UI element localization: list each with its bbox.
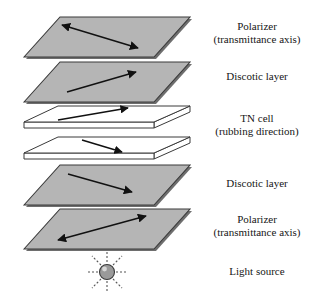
tn-cell-upper-plate: [24, 106, 190, 128]
label-polarizer-top: Polarizer (transmittance axis): [200, 20, 314, 46]
light-source-highlight: [102, 267, 107, 272]
discotic-top-plane: [24, 62, 190, 102]
label-polarizer-bottom-line2: (transmittance axis): [200, 226, 314, 239]
layer-polarizer-top: [24, 17, 192, 59]
label-discotic-bottom-line1: Discotic layer: [200, 177, 314, 190]
polarizer-top-plane: [24, 17, 190, 57]
polarizer-bottom-plane: [24, 209, 190, 249]
label-polarizer-bottom: Polarizer (transmittance axis): [200, 213, 314, 239]
label-discotic-top: Discotic layer: [200, 70, 314, 83]
label-light-source-line1: Light source: [200, 265, 314, 278]
ray-sw: [92, 279, 101, 288]
label-polarizer-top-line1: Polarizer: [200, 20, 314, 33]
label-light-source: Light source: [200, 265, 314, 278]
ray-nw: [92, 256, 101, 265]
label-tn-cell: TN cell (rubbing direction): [200, 112, 314, 138]
light-source-icon: [86, 252, 128, 292]
tn-upper-plate-front-face: [24, 122, 154, 128]
light-source-sphere: [100, 265, 115, 280]
label-tn-cell-line1: TN cell: [200, 112, 314, 125]
label-discotic-top-line1: Discotic layer: [200, 70, 314, 83]
label-polarizer-top-line2: (transmittance axis): [200, 33, 314, 46]
tn-cell-lower-plate: [24, 137, 190, 159]
label-polarizer-bottom-line1: Polarizer: [200, 213, 314, 226]
layer-discotic-bottom: [24, 165, 192, 207]
layer-polarizer-bottom: [24, 209, 192, 251]
ray-ne: [113, 256, 122, 265]
ray-se: [113, 279, 122, 288]
layer-discotic-top: [24, 62, 192, 104]
label-tn-cell-line2: (rubbing direction): [200, 125, 314, 138]
layer-tn-cell: [24, 106, 190, 159]
label-discotic-bottom: Discotic layer: [200, 177, 314, 190]
tn-lower-plate-front-face: [24, 153, 154, 159]
